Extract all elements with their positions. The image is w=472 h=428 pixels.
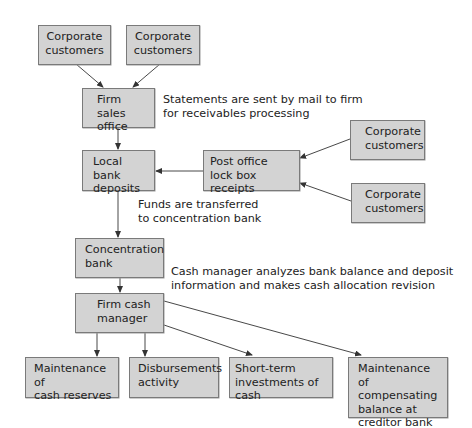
node-label: Maintenance of compensating balance at c… — [358, 362, 441, 428]
node-firm-cash-manager: Firm cash manager — [75, 293, 164, 333]
arrow-corp1-to-sales — [76, 64, 103, 87]
node-label: Disbursements activity — [138, 362, 212, 389]
node-disbursements-activity: Disbursements activity — [129, 357, 219, 398]
node-label: Post office lock box receipts — [210, 155, 293, 196]
node-label: Short-term investments of cash — [235, 362, 326, 403]
arrow-corp4-to-postoffice — [300, 183, 351, 201]
node-maintenance-cash-reserves: Maintenance of cash reserves — [25, 357, 119, 398]
arrow-corp3-to-postoffice — [300, 139, 350, 158]
node-corporate-customers-3: Corporate customers — [350, 120, 425, 160]
node-label: Corporate customers — [365, 188, 418, 215]
node-corporate-customers-4: Corporate customers — [351, 183, 425, 223]
note-funds-transferred: Funds are transferred to concentration b… — [138, 198, 261, 225]
arrow-corp2-to-sales — [133, 64, 160, 87]
node-short-term-investments: Short-term investments of cash — [229, 357, 333, 398]
node-label: Corporate customers — [133, 30, 193, 57]
node-label: Local bank deposits — [93, 155, 148, 196]
node-local-bank-deposits: Local bank deposits — [82, 150, 155, 191]
arrow-cashmgr-to-shortterm — [164, 325, 252, 355]
arrow-cashmgr-to-compensating — [164, 301, 361, 355]
node-post-office-lock-box: Post office lock box receipts — [203, 150, 300, 191]
node-corporate-customers-1: Corporate customers — [38, 25, 111, 65]
node-label: Corporate customers — [45, 30, 104, 57]
note-cash-manager-analysis: Cash manager analyzes bank balance and d… — [171, 265, 453, 292]
node-label: Firm cash manager — [97, 298, 157, 325]
node-firm-sales-office: Firm sales office — [82, 88, 155, 128]
node-label: Firm sales office — [97, 93, 148, 134]
node-label: Maintenance of cash reserves — [34, 362, 112, 403]
node-concentration-bank: Concentration bank — [75, 238, 164, 278]
node-label: Corporate customers — [365, 125, 418, 152]
node-corporate-customers-2: Corporate customers — [126, 25, 200, 65]
node-maintenance-compensating-balance: Maintenance of compensating balance at c… — [348, 357, 448, 418]
node-label: Concentration bank — [85, 243, 157, 270]
note-statements: Statements are sent by mail to firm for … — [163, 93, 363, 120]
